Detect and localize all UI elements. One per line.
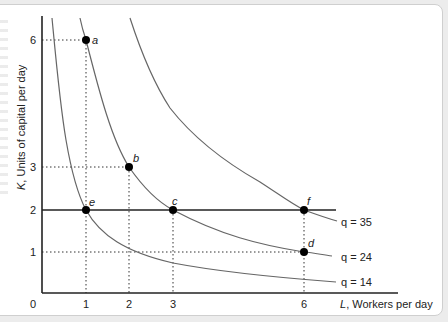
x-tick-3: 3 (170, 298, 176, 310)
point-label-a: a (92, 34, 98, 46)
isoquant-q35 (130, 18, 337, 221)
y-tick-6: 6 (30, 34, 36, 46)
y-axis-title: K, Units of capital per day (15, 64, 27, 190)
origin-label: 0 (30, 298, 36, 310)
label-q14: q = 14 (341, 276, 372, 288)
y-tick-1: 1 (30, 246, 36, 258)
point-label-d: d (308, 237, 315, 249)
isoquant-chart: 6 3 2 1 0 1 2 3 6 L, Workers per day K, … (0, 0, 448, 322)
y-axis-text: , Units of capital per day (15, 64, 27, 183)
label-q35: q = 35 (341, 216, 372, 228)
point-a (82, 36, 90, 44)
x-axis-title: L, Workers per day (340, 298, 433, 310)
label-q24: q = 24 (341, 251, 372, 263)
y-tick-3: 3 (30, 161, 36, 173)
isoquant-q14 (52, 18, 336, 282)
x-tick-1: 1 (83, 298, 89, 310)
point-d (300, 248, 308, 256)
point-label-c: c (172, 195, 178, 207)
x-tick-2: 2 (126, 298, 132, 310)
y-tick-2: 2 (30, 204, 36, 216)
point-label-e: e (89, 196, 95, 208)
point-b (125, 163, 133, 171)
point-label-b: b (133, 152, 139, 164)
x-axis-text: , Workers per day (346, 298, 433, 310)
point-f (300, 206, 308, 214)
x-tick-6: 6 (301, 298, 307, 310)
guide-lines (42, 40, 304, 293)
point-label-f: f (307, 195, 311, 207)
isoquant-q24 (80, 18, 332, 256)
point-c (169, 206, 177, 214)
data-points (82, 36, 308, 256)
